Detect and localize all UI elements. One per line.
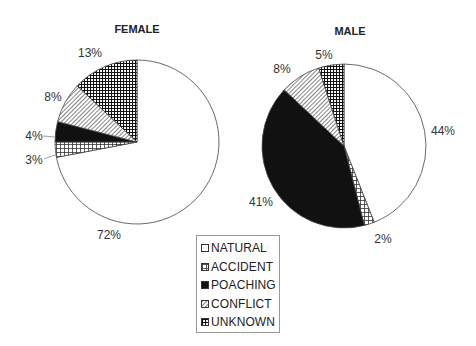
accident-swatch-icon	[201, 263, 209, 271]
male-natural-label: 44%	[431, 124, 455, 138]
male-unknown-label: 5%	[315, 48, 333, 62]
female-pie	[55, 60, 219, 224]
female-natural-label: 72%	[97, 228, 121, 242]
natural-swatch-icon	[201, 244, 209, 252]
conflict-swatch-icon	[201, 300, 209, 308]
male-poaching-label: 41%	[249, 195, 273, 209]
legend-label: POACHING	[211, 278, 276, 292]
male-conflict-label: 8%	[273, 62, 291, 76]
legend-label: ACCIDENT	[211, 260, 273, 274]
legend: NATURAL ACCIDENT POACHING CONFLICT UNKNO…	[196, 235, 280, 333]
male-accident-label: 2%	[374, 232, 392, 246]
female-accident-label: 3%	[25, 153, 43, 167]
legend-label: UNKNOWN	[211, 315, 275, 329]
female-poaching-label: 4%	[25, 129, 43, 143]
legend-item-unknown: UNKNOWN	[201, 313, 279, 332]
female-chart-title: FEMALE	[114, 23, 159, 35]
legend-item-poaching: POACHING	[201, 276, 279, 295]
legend-label: CONFLICT	[211, 297, 272, 311]
female-poaching-leader	[43, 136, 55, 137]
legend-item-conflict: CONFLICT	[201, 295, 279, 314]
female-conflict-label: 8%	[44, 90, 62, 104]
unknown-swatch-icon	[201, 318, 209, 326]
poaching-swatch-icon	[201, 281, 209, 289]
legend-label: NATURAL	[211, 241, 267, 255]
male-chart-title: MALE	[334, 25, 365, 37]
male-pie	[262, 64, 426, 228]
female-accident-leader	[44, 155, 56, 159]
legend-item-natural: NATURAL	[201, 239, 279, 258]
legend-item-accident: ACCIDENT	[201, 258, 279, 277]
female-unknown-label: 13%	[78, 46, 102, 60]
